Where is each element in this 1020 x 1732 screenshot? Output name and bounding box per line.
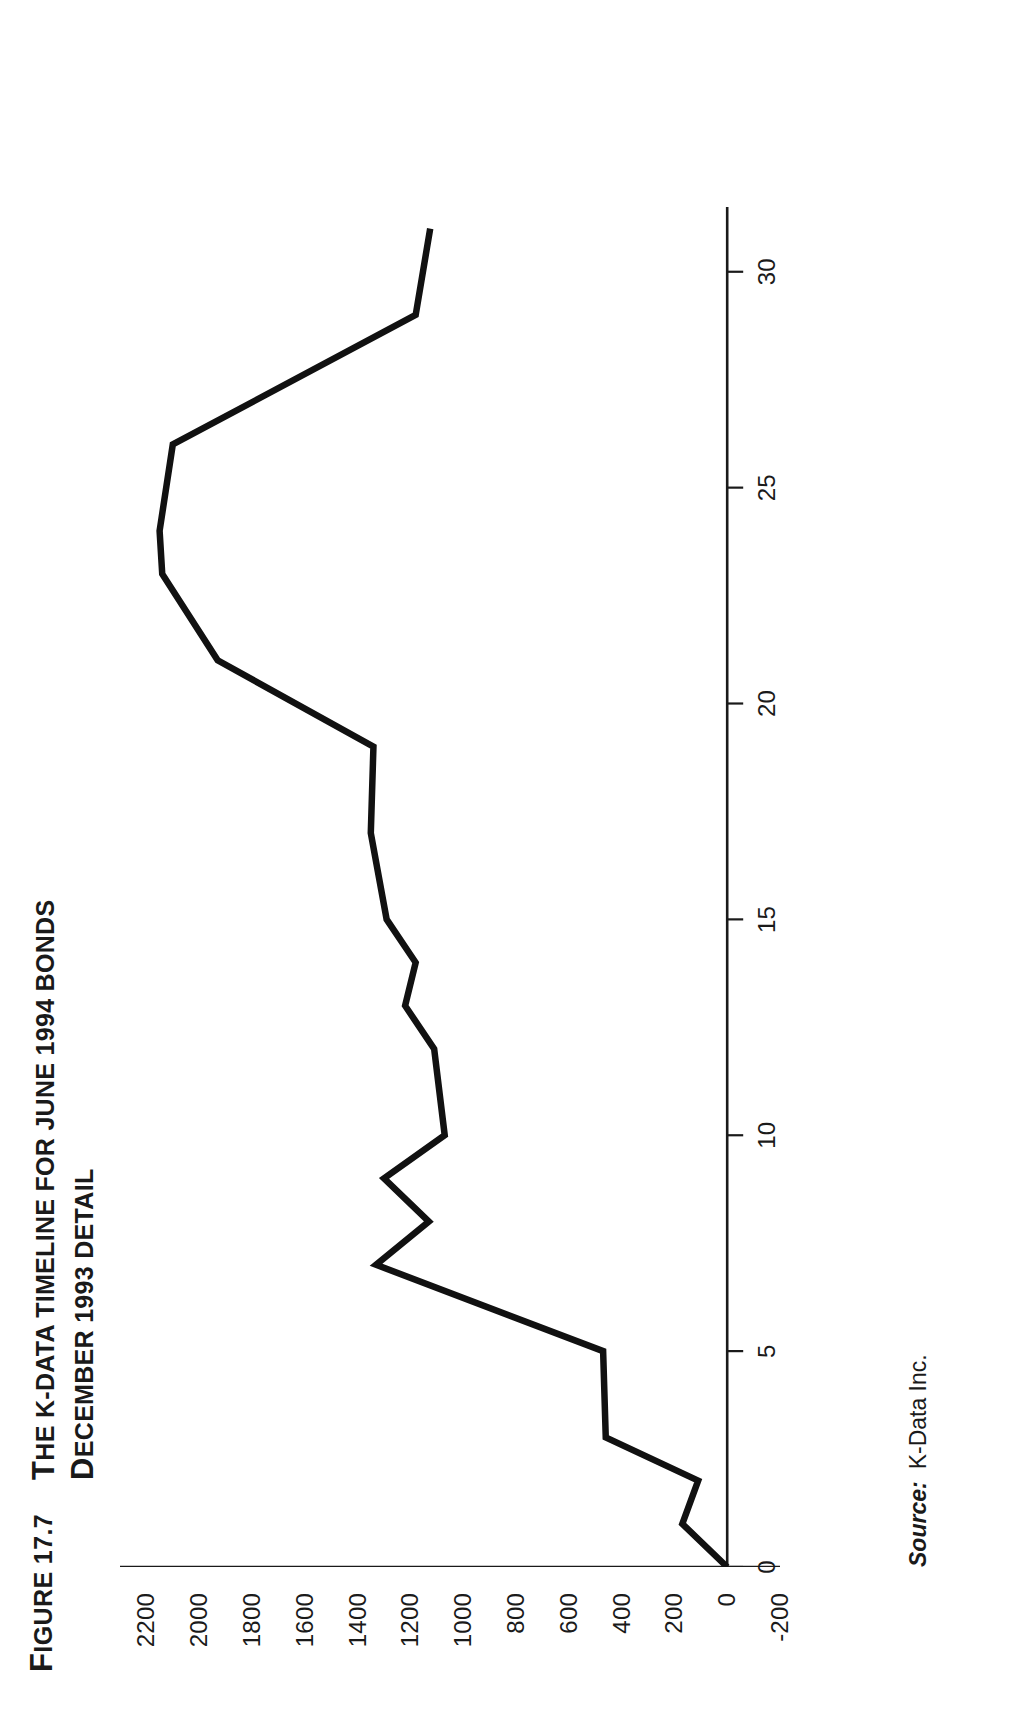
figure-title-line-1: THE K-DATA TIMELINE FOR JUNE 1994 BONDS bbox=[24, 900, 63, 1480]
chart-series-group bbox=[160, 229, 728, 1567]
series-line-k-data bbox=[160, 229, 728, 1567]
figure-title-line-1-cap: T bbox=[26, 1461, 61, 1480]
figure-title-line-2-text: ECEMBER 1993 DETAIL bbox=[70, 1169, 98, 1458]
figure-header: FIGURE 17.7 THE K-DATA TIMELINE FOR JUNE… bbox=[24, 900, 102, 1672]
line-chart-svg bbox=[120, 172, 830, 1567]
x-axis-tick-label: 10 bbox=[753, 1122, 781, 1149]
figure-canvas: FIGURE 17.7 THE K-DATA TIMELINE FOR JUNE… bbox=[0, 0, 1020, 1732]
y-axis-tick-label: 800 bbox=[502, 1593, 530, 1634]
source-note: Source:K-Data Inc. bbox=[905, 1354, 932, 1567]
chart-axes bbox=[120, 207, 780, 1567]
chart-plot-area: 051015202530 -20002004006008001000120014… bbox=[120, 172, 830, 1567]
source-label: Source: bbox=[905, 1481, 931, 1567]
y-axis-tick-label: 0 bbox=[713, 1593, 741, 1607]
figure-number-leading-cap: F bbox=[24, 1653, 59, 1672]
y-axis-tick-label: 600 bbox=[555, 1593, 583, 1634]
x-axis-tick-label: 5 bbox=[753, 1344, 781, 1358]
x-axis-tick-label: 15 bbox=[753, 906, 781, 933]
figure-number-text: IGURE 17.7 bbox=[29, 1514, 57, 1653]
y-axis-tick-label: 2200 bbox=[132, 1593, 160, 1647]
y-axis-tick-label: 1800 bbox=[238, 1593, 266, 1647]
x-axis-ticks bbox=[727, 272, 743, 1567]
x-axis-tick-label: 30 bbox=[753, 258, 781, 285]
x-axis-tick-label: 20 bbox=[753, 690, 781, 717]
y-axis-tick-label: 1000 bbox=[449, 1593, 477, 1647]
x-axis-tick-label: 0 bbox=[753, 1560, 781, 1574]
y-axis-tick-label: -200 bbox=[766, 1593, 794, 1642]
y-axis-tick-label: 1600 bbox=[291, 1593, 319, 1647]
x-axis-tick-label: 25 bbox=[753, 474, 781, 501]
figure-title-line-2-cap: D bbox=[65, 1457, 100, 1480]
figure-title-line-1-text: HE K-DATA TIMELINE FOR JUNE 1994 BONDS bbox=[31, 900, 59, 1461]
y-axis-tick-label: 1200 bbox=[396, 1593, 424, 1647]
y-axis-tick-label: 200 bbox=[660, 1593, 688, 1634]
y-axis-tick-label: 1400 bbox=[344, 1593, 372, 1647]
figure-number: FIGURE 17.7 bbox=[24, 1514, 60, 1672]
y-axis-tick-label: 400 bbox=[608, 1593, 636, 1634]
figure-title-line-2: DECEMBER 1993 DETAIL bbox=[63, 900, 102, 1480]
figure-title: THE K-DATA TIMELINE FOR JUNE 1994 BONDS … bbox=[24, 900, 102, 1480]
source-value: K-Data Inc. bbox=[905, 1354, 931, 1469]
y-axis-tick-label: 2000 bbox=[185, 1593, 213, 1647]
